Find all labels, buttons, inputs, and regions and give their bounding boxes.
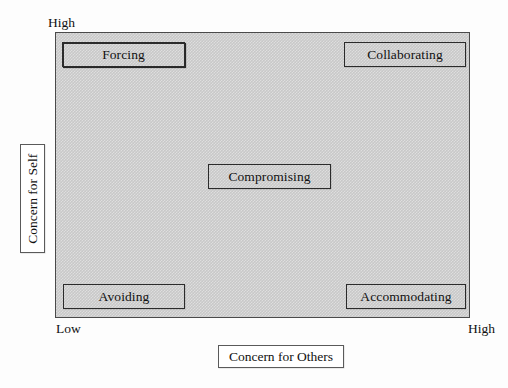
cell-compromising-box: Compromising	[208, 164, 331, 189]
y-axis-title-box: Concern for Self	[20, 144, 45, 253]
cell-forcing-box: Forcing	[62, 42, 185, 67]
conflict-handling-styles-figure: High Concern for Self Forcing Collaborat…	[0, 0, 508, 388]
cell-accommodating-box: Accommodating	[346, 284, 466, 309]
y-axis-high-label: High	[48, 16, 75, 30]
cell-collaborating-box: Collaborating	[344, 42, 466, 67]
x-axis-high-label: High	[468, 322, 495, 336]
x-axis-title-box: Concern for Others	[218, 345, 344, 368]
x-axis-low-label: Low	[56, 322, 81, 336]
y-axis-title-label: Concern for Self	[26, 154, 40, 244]
cell-avoiding-box: Avoiding	[63, 284, 185, 309]
